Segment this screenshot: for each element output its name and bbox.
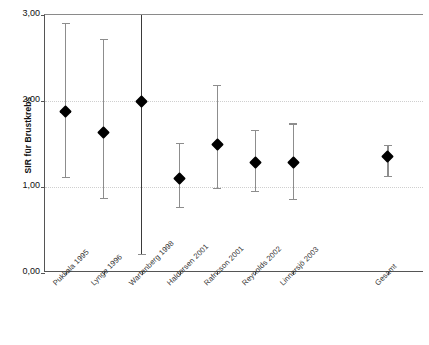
x-tick-label: Lynge 1996	[89, 252, 124, 287]
x-tick-label: Pukkala 1995	[51, 248, 91, 288]
x-tick-label: Gesamt	[373, 262, 399, 288]
x-axis-tick-labels: Pukkala 1995Lynge 1996Wartenberg 1998Hal…	[0, 0, 429, 345]
x-tick-label: Linnersjö 2003	[278, 245, 321, 288]
breast-cancer-sir-forest-plot: 0,001,002,003,00 SIR für Brustkrebs Pukk…	[0, 0, 429, 345]
